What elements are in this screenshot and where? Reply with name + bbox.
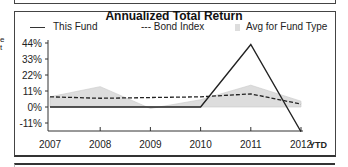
x-tick-label: 2007 (39, 139, 62, 150)
x-tick-label: 2008 (89, 139, 112, 150)
y-tick-label: 44% (22, 38, 42, 49)
y-tick-label: 33% (22, 54, 42, 65)
this-fund-line (50, 44, 301, 131)
chart-plot: 44%33%22%11%0%-11%2007200820092010201120… (0, 0, 348, 167)
y-tick-label: 11% (23, 86, 42, 97)
x-tick-label: 2011 (240, 139, 262, 150)
ytd-label: YTD (309, 140, 328, 150)
x-tick-label: 2010 (189, 139, 212, 150)
x-tick-label: 2009 (139, 139, 162, 150)
y-tick-label: -11% (19, 118, 42, 129)
y-tick-label: 22% (22, 70, 42, 81)
y-tick-label: 0% (28, 102, 43, 113)
